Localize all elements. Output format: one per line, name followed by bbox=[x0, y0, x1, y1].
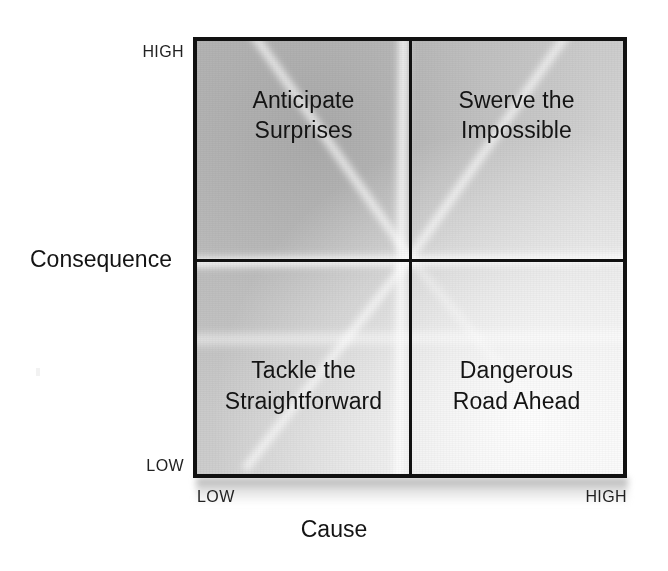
quadrant-top-right-line2: Impossible bbox=[461, 115, 572, 145]
quadrant-bottom-left-line2: Straightforward bbox=[225, 386, 382, 416]
scan-speck bbox=[36, 368, 40, 376]
quadrant-bottom-right-line2: Road Ahead bbox=[453, 386, 581, 416]
x-axis-tick-low: LOW bbox=[197, 488, 235, 506]
quadrant-bottom-left-line1: Tackle the bbox=[251, 355, 356, 385]
quadrant-bottom-right-line1: Dangerous bbox=[460, 355, 573, 385]
y-axis-title: Consequence bbox=[30, 246, 172, 273]
risk-matrix-figure: Anticipate Surprises Swerve the Impossib… bbox=[0, 0, 668, 571]
quadrant-top-left-line1: Anticipate bbox=[252, 85, 354, 115]
quadrant-top-right: Swerve the Impossible bbox=[410, 41, 623, 258]
y-axis-tick-low: LOW bbox=[106, 457, 184, 475]
quadrant-top-left-line2: Surprises bbox=[254, 115, 352, 145]
y-axis-tick-high: HIGH bbox=[106, 43, 184, 61]
x-axis-title: Cause bbox=[0, 516, 668, 543]
matrix-plot-area: Anticipate Surprises Swerve the Impossib… bbox=[193, 37, 627, 478]
quadrant-top-right-line1: Swerve the bbox=[458, 85, 574, 115]
quadrant-bottom-left: Tackle the Straightforward bbox=[197, 258, 410, 475]
quadrant-bottom-right: Dangerous Road Ahead bbox=[410, 258, 623, 475]
x-axis-tick-high: HIGH bbox=[529, 488, 627, 506]
quadrant-top-left: Anticipate Surprises bbox=[197, 41, 410, 258]
